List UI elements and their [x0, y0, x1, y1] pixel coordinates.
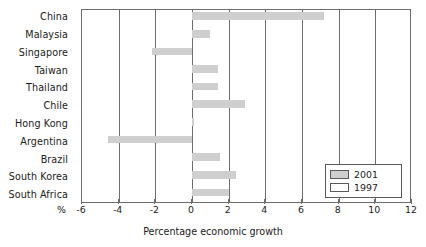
x-axis-tick-label-12: 12	[405, 204, 417, 215]
y-axis-label-chile: Chile	[0, 97, 74, 115]
bar-malaysia-2001	[192, 30, 210, 38]
y-axis-label-china: China	[0, 8, 74, 26]
x-axis-tick-label--2: -2	[150, 204, 159, 215]
x-axis-tick-label-8: 8	[335, 204, 341, 215]
bar-row	[82, 45, 410, 63]
y-axis-label-south-korea: South Korea	[0, 168, 74, 186]
x-axis-tick-label-10: 10	[368, 204, 380, 215]
bar-china-2001	[192, 12, 324, 20]
bar-row	[82, 116, 410, 134]
legend-swatch-1997-icon	[330, 183, 349, 192]
x-axis-tick-label--4: -4	[113, 204, 122, 215]
bar-singapore-2001	[152, 48, 192, 56]
x-axis-ticks: -6-4-2024681012	[81, 204, 411, 222]
bar-row	[82, 81, 410, 99]
y-axis-label-taiwan: Taiwan	[0, 61, 74, 79]
y-axis-label-argentina: Argentina	[0, 133, 74, 151]
legend-entry-2001: 2001	[330, 170, 397, 179]
x-axis-tick-label-4: 4	[261, 204, 267, 215]
y-axis-label-malaysia: Malaysia	[0, 26, 74, 44]
legend-label-2001: 2001	[354, 170, 378, 179]
bar-chart-figure: China Malaysia Singapore Taiwan Thailand…	[0, 0, 426, 247]
bar-row	[82, 133, 410, 151]
bar-row	[82, 10, 410, 28]
bar-chile-2001	[192, 100, 245, 108]
y-axis-label-thailand: Thailand	[0, 79, 74, 97]
legend-entry-1997: 1997	[330, 183, 397, 192]
bar-row	[82, 98, 410, 116]
y-axis-category-labels: China Malaysia Singapore Taiwan Thailand…	[0, 8, 74, 204]
legend-swatch-2001-icon	[330, 170, 349, 179]
y-axis-label-brazil: Brazil	[0, 151, 74, 169]
x-axis-tick-label-0: 0	[188, 204, 194, 215]
x-axis-tick-label--6: -6	[76, 204, 85, 215]
bar-south-korea-2001	[192, 171, 236, 179]
bar-argentina-2001	[108, 136, 192, 144]
legend-label-1997: 1997	[354, 183, 378, 192]
bar-taiwan-2001	[192, 65, 218, 73]
bar-brazil-2001	[192, 153, 220, 161]
bar-thailand-2001	[192, 83, 218, 91]
y-axis-label-south-africa: South Africa	[0, 186, 74, 204]
x-axis-unit-label: %	[57, 204, 66, 215]
x-axis-tick-label-2: 2	[225, 204, 231, 215]
bar-row	[82, 63, 410, 81]
y-axis-label-singapore: Singapore	[0, 44, 74, 62]
bar-hong-kong-2001	[192, 118, 194, 126]
bar-row	[82, 28, 410, 46]
x-axis-tick-label-6: 6	[298, 204, 304, 215]
legend: 2001 1997	[325, 164, 402, 198]
bar-south-africa-2001	[192, 189, 229, 197]
y-axis-label-hong-kong: Hong Kong	[0, 115, 74, 133]
x-axis-title: Percentage economic growth	[0, 226, 426, 237]
